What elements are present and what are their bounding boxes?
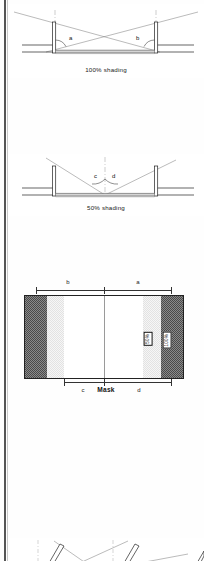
band-label-100: 100% <box>163 332 172 349</box>
caption-50-shading-vertical: 50% shading <box>8 204 204 211</box>
dim-tick-br <box>171 379 172 386</box>
dim-tick-bl <box>64 379 65 386</box>
mask-band-center-right <box>104 296 144 378</box>
section-drawing-angled-100: a b <box>8 538 204 561</box>
dim-label-a: a <box>128 279 148 285</box>
angle-label-c: c <box>94 173 97 179</box>
caption-mask-vertical: Mask <box>8 386 204 393</box>
dim-tick-mid <box>104 287 105 294</box>
mask-center-line <box>104 296 105 378</box>
angle-label-a: a <box>69 35 73 41</box>
mask-band-inner-right: 50% <box>143 296 160 378</box>
panel-vertical-fins-mask: b a 50% 100% c d Mask <box>8 278 204 406</box>
band-label-50: 50% <box>144 332 153 346</box>
angle-label-b: b <box>136 35 140 41</box>
caption-100-shading-vertical: 100% shading <box>8 66 204 73</box>
panel-angled-fins-100: a b 100% shading <box>8 538 204 561</box>
panel-vertical-fins-100: a b 100% shading <box>8 4 204 78</box>
mask-bottom-dimension-line <box>64 382 172 383</box>
mask-band-center-left <box>64 296 104 378</box>
page-binding-rule <box>4 0 6 561</box>
dim-tick-left <box>36 287 37 294</box>
dim-label-b: b <box>58 279 78 285</box>
mask-band-outer-right: 100% <box>161 296 183 378</box>
angle-label-d: d <box>112 173 115 179</box>
panel-vertical-fins-50: c d 50% shading <box>8 154 204 216</box>
mask-band-inner-left <box>47 296 64 378</box>
mask-band-outer-left <box>25 296 47 378</box>
dim-tick-right <box>171 287 172 294</box>
mask-diagram-vertical: 50% 100% <box>24 295 184 379</box>
dim-tick-bm <box>104 379 105 386</box>
figure-page: a b 100% shading <box>0 0 204 561</box>
